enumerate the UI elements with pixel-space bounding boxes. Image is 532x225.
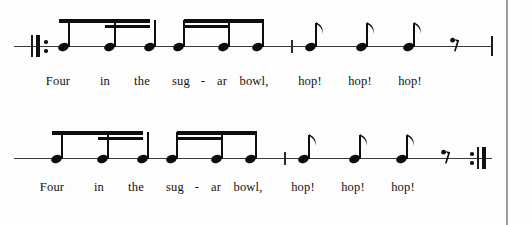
note-stem [107, 132, 109, 159]
notehead [355, 41, 368, 52]
notehead [210, 153, 223, 164]
repeat-thin-line-icon [477, 147, 479, 169]
primary-beam-icon [52, 131, 143, 135]
eighth-flag-icon [367, 22, 376, 37]
secondary-beam-icon [98, 137, 143, 140]
notehead [395, 153, 408, 164]
lyric-syllable: hop! [298, 74, 322, 89]
note-stem [255, 132, 257, 159]
note-stem [61, 132, 63, 159]
notehead [165, 153, 178, 164]
lyric-syllable: the [128, 180, 144, 195]
notehead [244, 153, 257, 164]
measure-barline-2 [284, 152, 286, 165]
repeat-thick-line-icon [482, 147, 486, 169]
lyric-syllable: hop! [398, 74, 422, 89]
eighth-flag-icon [360, 134, 369, 149]
lyric-syllable: hop! [348, 74, 372, 89]
lyric-syllable: hop! [291, 180, 315, 195]
eighth-flag-icon [309, 134, 318, 149]
lyric-syllable: the [134, 74, 150, 89]
note-stem [221, 132, 223, 159]
notehead [172, 41, 185, 52]
staff-area-1 [0, 10, 532, 80]
repeat-dot-upper-icon [44, 40, 48, 44]
note-stem [183, 20, 185, 47]
notehead [217, 41, 230, 52]
lyrics-row-1: Four in the sug - ar bowl, hop! hop! hop… [0, 74, 532, 96]
lyric-syllable: Four [46, 74, 70, 89]
primary-beam-icon [184, 19, 264, 23]
notehead [103, 41, 116, 52]
notehead [96, 153, 109, 164]
secondary-beam-icon [105, 25, 150, 28]
lyric-syllable: in [100, 74, 110, 89]
lyric-syllable: bowl, [233, 180, 262, 195]
notehead [251, 41, 264, 52]
notehead [143, 41, 156, 52]
repeat-dot-upper-icon [470, 152, 474, 156]
eighth-flag-icon [316, 22, 325, 37]
note-stem [228, 20, 230, 47]
sheet-music-page: Four in the sug - ar bowl, hop! hop! hop… [0, 0, 532, 225]
eighth-rest-icon [450, 37, 461, 54]
repeat-dot-lower-icon [44, 49, 48, 53]
lyric-hyphen: - [195, 180, 199, 195]
repeat-dot-lower-icon [470, 161, 474, 165]
eighth-rest-icon [441, 149, 452, 166]
note-stem [154, 20, 156, 47]
lyric-syllable: sug [172, 74, 190, 89]
notehead [136, 153, 149, 164]
lyric-syllable: bowl, [239, 74, 268, 89]
note-stem [262, 20, 264, 47]
page-edge-border [506, 0, 508, 225]
notehead [304, 41, 317, 52]
notehead [297, 153, 310, 164]
measure-barline-1 [291, 40, 293, 53]
eighth-flag-icon [407, 134, 416, 149]
note-stem [176, 132, 178, 159]
lyric-hyphen: - [201, 74, 205, 89]
lyric-syllable: ar [217, 74, 227, 89]
notehead [402, 41, 415, 52]
note-stem [114, 20, 116, 47]
lyric-syllable: Four [40, 180, 64, 195]
end-barline-1 [491, 36, 493, 56]
notehead [57, 41, 70, 52]
note-stem [68, 20, 70, 47]
lyric-syllable: in [94, 180, 104, 195]
primary-beam-icon [177, 131, 257, 135]
lyric-syllable: hop! [341, 180, 365, 195]
notehead [50, 153, 63, 164]
eighth-flag-icon [414, 22, 423, 37]
repeat-thick-line-icon [36, 35, 40, 57]
lyric-syllable: hop! [391, 180, 415, 195]
notehead [348, 153, 361, 164]
lyric-syllable: sug [166, 180, 184, 195]
note-stem [147, 132, 149, 159]
lyrics-row-2: Four in the sug - ar bowl, hop! hop! hop… [0, 180, 532, 202]
lyric-syllable: ar [211, 180, 221, 195]
secondary-beam-icon [184, 25, 229, 28]
primary-beam-icon [59, 19, 150, 23]
repeat-thin-line-icon [31, 35, 33, 57]
secondary-beam-icon [177, 137, 222, 140]
staff-system-1 [0, 10, 532, 80]
